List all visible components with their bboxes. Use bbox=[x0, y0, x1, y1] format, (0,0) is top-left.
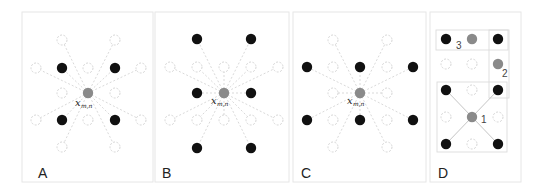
panel-b-label: B bbox=[162, 165, 171, 181]
panel-d-label: D bbox=[438, 165, 448, 181]
panel-c-black-dot bbox=[302, 115, 312, 125]
panel-d-open-dot bbox=[441, 112, 451, 122]
panel-c-open-dot bbox=[328, 35, 338, 45]
panel-a-open-dot bbox=[83, 115, 93, 125]
panel-d-open-dot bbox=[441, 59, 451, 69]
panel-a-black-dot bbox=[57, 63, 67, 73]
panel-c-open-dot bbox=[328, 115, 338, 125]
panel-d-gray-dot bbox=[467, 112, 477, 122]
panel-b-open-dot bbox=[165, 115, 175, 125]
panel-c-black-dot bbox=[408, 62, 418, 72]
panel-a-open-dot bbox=[57, 142, 67, 152]
panel-b-open-dot bbox=[165, 62, 175, 72]
panel-d-black-dot bbox=[493, 34, 503, 44]
panel-c-open-dot bbox=[382, 35, 392, 45]
panel-a-center-label: x m,n bbox=[75, 97, 93, 109]
panel-a-open-dot bbox=[136, 63, 146, 73]
panel-c-black-dot bbox=[355, 115, 365, 125]
panel-b-open-dot bbox=[273, 115, 283, 125]
panel-a-label: A bbox=[38, 165, 48, 181]
panel-b-open-dot bbox=[246, 62, 256, 72]
panel-b-black-dot bbox=[192, 88, 202, 98]
box-2-number: 2 bbox=[502, 68, 508, 79]
panel-a-black-dot bbox=[57, 115, 67, 125]
panel-c-black-dot bbox=[355, 62, 365, 72]
panel-a-open-dot bbox=[136, 115, 146, 125]
panel-d-black-dot bbox=[493, 139, 503, 149]
panel-b-gray-dot bbox=[219, 88, 229, 98]
panel-b-black-dot bbox=[246, 143, 256, 153]
panel-a-open-dot bbox=[31, 63, 41, 73]
panel-a-open-dot bbox=[31, 115, 41, 125]
panel-c-black-dot bbox=[302, 62, 312, 72]
panel-b-open-dot bbox=[219, 115, 229, 125]
center-subscript-b: m,n bbox=[217, 100, 229, 107]
panel-b-black-dot bbox=[246, 88, 256, 98]
dots-layer bbox=[31, 34, 503, 153]
panel-b-open-dot bbox=[273, 62, 283, 72]
panel-b-black-dot bbox=[192, 143, 202, 153]
panel-a-open-dot bbox=[110, 88, 120, 98]
panel-c-label: C bbox=[301, 165, 311, 181]
panel-a-open-dot bbox=[110, 142, 120, 152]
panel-c-open-dot bbox=[382, 142, 392, 152]
panel-b-open-dot bbox=[246, 115, 256, 125]
panel-b-black-dot bbox=[246, 34, 256, 44]
panel-b-open-dot bbox=[192, 115, 202, 125]
panel-c-open-dot bbox=[328, 88, 338, 98]
panel-c-open-dot bbox=[328, 62, 338, 72]
figure-canvas: x m,n x m,n x m,n 1 2 3 A B C D bbox=[0, 0, 546, 191]
panel-a-open-dot bbox=[110, 35, 120, 45]
panel-d-open-dot bbox=[467, 59, 477, 69]
panel-c-black-dot bbox=[408, 115, 418, 125]
panel-d-black-dot bbox=[441, 85, 451, 95]
panel-c-open-dot bbox=[382, 88, 392, 98]
panel-d-black-dot bbox=[493, 85, 503, 95]
panel-d-black-dot bbox=[441, 139, 451, 149]
panel-d-black-dot bbox=[441, 34, 451, 44]
panel-b-black-dot bbox=[192, 34, 202, 44]
box-3-number: 3 bbox=[456, 40, 462, 51]
panel-b-open-dot bbox=[219, 62, 229, 72]
panel-a-open-dot bbox=[83, 63, 93, 73]
panel-c-open-dot bbox=[328, 142, 338, 152]
panel-a-black-dot bbox=[110, 115, 120, 125]
center-subscript-a: m,n bbox=[81, 102, 93, 109]
center-subscript-c: m,n bbox=[353, 100, 365, 107]
panel-c-gray-dot bbox=[355, 88, 365, 98]
panel-a-gray-dot bbox=[83, 88, 93, 98]
panel-d-gray-dot bbox=[467, 34, 477, 44]
panel-a-black-dot bbox=[110, 63, 120, 73]
panel-d-open-dot bbox=[493, 112, 503, 122]
panel-d-open-dot bbox=[467, 85, 477, 95]
box-1-number: 1 bbox=[481, 114, 487, 125]
panel-c-open-dot bbox=[382, 115, 392, 125]
panel-a-open-dot bbox=[57, 88, 67, 98]
panel-b-open-dot bbox=[192, 62, 202, 72]
panel-c-open-dot bbox=[382, 62, 392, 72]
panel-d-open-dot bbox=[467, 139, 477, 149]
panel-a-open-dot bbox=[57, 35, 67, 45]
